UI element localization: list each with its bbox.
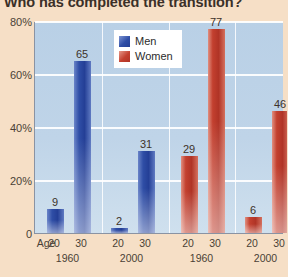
y-axis-tick-label: 40% (0, 122, 32, 134)
bar-value-label: 9 (52, 196, 58, 208)
chart-title: Who has completed the transition? (4, 0, 287, 11)
legend-label-women: Women (135, 50, 173, 62)
group-divider (102, 22, 103, 233)
bar-value-label: 46 (274, 98, 286, 110)
y-axis-tick-label: 80% (0, 16, 32, 28)
bar-chart-figure: Who has completed the transition? 020%40… (0, 0, 287, 277)
gridline (35, 180, 283, 182)
bar-women-1960-age20 (181, 156, 198, 233)
x-axis-age-tick: 30 (209, 237, 221, 249)
x-axis-age-tick: 20 (48, 237, 60, 249)
x-axis-year-label: 1960 (56, 252, 79, 264)
legend-item-women: Women (119, 49, 177, 63)
x-axis-age-tick: 20 (182, 237, 194, 249)
x-axis-age-tick: 20 (112, 237, 124, 249)
chart-legend: Men Women (114, 30, 182, 68)
bar-men-1960-age20 (47, 209, 64, 233)
legend-item-men: Men (119, 34, 177, 48)
x-axis-age-tick: 30 (139, 237, 151, 249)
bar-women-1960-age30 (208, 29, 225, 233)
bar-value-label: 77 (210, 16, 222, 28)
bar-value-label: 31 (140, 138, 152, 150)
bar-men-2000-age30 (138, 151, 155, 233)
y-axis-tick-label: 60% (0, 69, 32, 81)
bar-women-2000-age20 (245, 217, 262, 233)
x-axis-year-label: 2000 (254, 252, 277, 264)
bar-value-label: 6 (250, 204, 256, 216)
group-divider (235, 22, 236, 233)
y-axis-tick-label: 20% (0, 175, 32, 187)
bar-men-2000-age20 (111, 228, 128, 233)
bar-women-2000-age30 (272, 111, 288, 233)
x-axis-year-label: 2000 (120, 252, 143, 264)
x-axis-year-label: 1960 (190, 252, 213, 264)
bar-men-1960-age30 (74, 61, 91, 233)
y-axis: 020%40%60%80% (0, 22, 32, 234)
legend-swatch-women-icon (119, 51, 130, 62)
x-axis-age-tick: 20 (246, 237, 258, 249)
bar-value-label: 2 (116, 215, 122, 227)
x-axis-age-tick: 30 (273, 237, 285, 249)
x-axis: Age20302030203020301960200019602000 (0, 234, 287, 274)
legend-label-men: Men (135, 35, 156, 47)
gridline (35, 74, 283, 76)
bar-value-label: 65 (76, 48, 88, 60)
x-axis-age-tick: 30 (75, 237, 87, 249)
gridline (35, 21, 283, 23)
bar-value-label: 29 (183, 143, 195, 155)
legend-swatch-men-icon (119, 36, 130, 47)
gridline (35, 127, 283, 129)
